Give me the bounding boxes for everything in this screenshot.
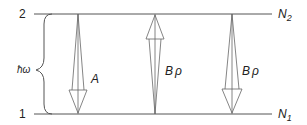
energy-gap-brace <box>36 14 52 114</box>
absorption-arrow <box>146 14 164 114</box>
transition-label-B-rho-absorption: Bρ <box>165 64 182 78</box>
upper-population-label: N2 <box>278 7 292 23</box>
upper-level-number: 2 <box>19 7 26 21</box>
energy-gap-label: ħω <box>17 64 31 75</box>
stimulated-emission-arrow <box>222 14 242 114</box>
spontaneous-emission-arrow <box>69 14 87 114</box>
lower-level-number: 1 <box>19 107 26 121</box>
diagram-canvas: 2 1 N2 N1 ħω A Bρ Bρ <box>0 0 307 125</box>
lower-population-label: N1 <box>278 107 292 123</box>
two-level-energy-diagram: 2 1 N2 N1 ħω A Bρ Bρ <box>0 0 307 125</box>
transition-label-A: A <box>90 72 99 86</box>
transition-label-B-rho-stimulated: Bρ <box>242 64 259 78</box>
